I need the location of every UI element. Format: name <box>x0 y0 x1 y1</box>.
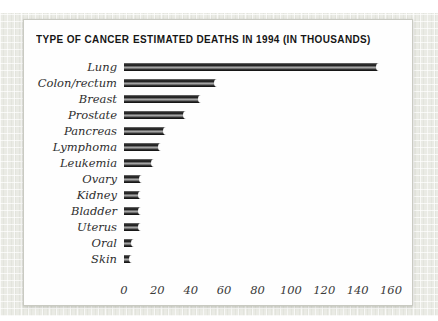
category-label: Breast <box>24 92 124 106</box>
bar-pancreas <box>124 127 166 135</box>
screenshot-root: TYPE OF CANCER ESTIMATED DEATHS IN 1994 … <box>0 0 438 321</box>
category-label: Lymphoma <box>24 140 124 154</box>
x-tick-label: 100 <box>280 283 302 297</box>
chart-row: Pancreas <box>24 123 412 139</box>
category-label: Prostate <box>24 108 124 122</box>
chart-row: Skin <box>24 251 412 267</box>
chart-row: Lymphoma <box>24 139 412 155</box>
x-tick-label: 80 <box>250 283 265 297</box>
header-type-of-cancer: TYPE OF CANCER <box>36 33 129 45</box>
x-tick-label: 120 <box>313 283 335 297</box>
category-label: Bladder <box>24 204 124 218</box>
chart-row: Oral <box>24 235 412 251</box>
x-tick-label: 40 <box>183 283 198 297</box>
bar-colon-rectum <box>124 79 217 87</box>
bar-bladder <box>124 207 141 215</box>
chart-row: Prostate <box>24 107 412 123</box>
chart-row: Lung <box>24 59 412 75</box>
category-label: Lung <box>24 60 124 74</box>
category-label: Leukemia <box>24 156 124 170</box>
bar-lung <box>124 63 379 71</box>
chart-row: Colon/rectum <box>24 75 412 91</box>
bar-ovary <box>124 175 142 183</box>
chart-header: TYPE OF CANCER ESTIMATED DEATHS IN 1994 … <box>24 33 412 47</box>
bar-breast <box>124 95 201 103</box>
header-estimated-deaths: ESTIMATED DEATHS IN 1994 (IN THOUSANDS) <box>133 33 371 45</box>
bar-prostate <box>124 111 186 119</box>
paper-background: TYPE OF CANCER ESTIMATED DEATHS IN 1994 … <box>0 13 438 316</box>
bar-chart-plot: LungColon/rectumBreastProstatePancreasLy… <box>24 59 412 267</box>
chart-row: Kidney <box>24 187 412 203</box>
category-label: Pancreas <box>24 124 124 138</box>
chart-row: Leukemia <box>24 155 412 171</box>
chart-card: TYPE OF CANCER ESTIMATED DEATHS IN 1994 … <box>23 19 413 306</box>
x-tick-label: 60 <box>217 283 232 297</box>
chart-row: Bladder <box>24 203 412 219</box>
x-tick-label: 140 <box>347 283 369 297</box>
bar-leukemia <box>124 159 154 167</box>
x-tick-label: 160 <box>380 283 402 297</box>
category-label: Skin <box>24 252 124 266</box>
category-label: Colon/rectum <box>24 76 124 90</box>
category-label: Kidney <box>24 188 124 202</box>
category-label: Ovary <box>24 172 124 186</box>
x-axis: 020406080100120140160 <box>24 283 412 299</box>
chart-row: Ovary <box>24 171 412 187</box>
bar-uterus <box>124 223 141 231</box>
bar-lymphoma <box>124 143 161 151</box>
bar-oral <box>124 239 134 247</box>
x-tick-label: 0 <box>120 283 127 297</box>
category-label: Uterus <box>24 220 124 234</box>
bar-skin <box>124 255 132 263</box>
chart-row: Uterus <box>24 219 412 235</box>
bar-kidney <box>124 191 141 199</box>
x-tick-label: 20 <box>150 283 165 297</box>
chart-row: Breast <box>24 91 412 107</box>
category-label: Oral <box>24 236 124 250</box>
